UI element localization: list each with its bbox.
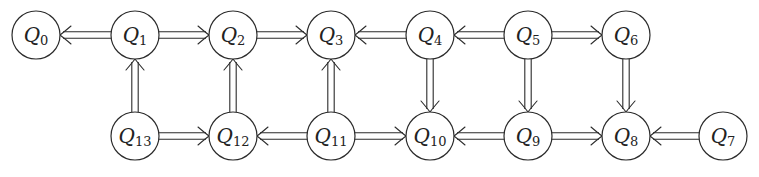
edge-q13-to-q12	[159, 127, 209, 145]
arrowhead-icon	[198, 26, 209, 44]
arrowhead-icon	[454, 127, 465, 145]
arrowhead-icon	[421, 101, 439, 112]
arrowhead-icon	[591, 26, 602, 44]
arrowhead-icon	[650, 127, 661, 145]
node-q0: Q0	[12, 11, 60, 59]
edge-q1-to-q2	[159, 26, 209, 44]
edge-q6-to-q8	[617, 59, 635, 112]
arrowhead-icon	[591, 127, 602, 145]
arrowhead-icon	[617, 101, 635, 112]
node-q10: Q10	[406, 112, 454, 160]
edge-q5-to-q9	[519, 59, 537, 112]
edge-q5-to-q4	[454, 26, 504, 44]
edge-q7-to-q8	[650, 127, 699, 145]
arrowhead-icon	[126, 59, 144, 70]
arrowhead-icon	[322, 59, 340, 70]
node-q9: Q9	[504, 112, 552, 160]
edge-q12-to-q2	[224, 59, 242, 112]
arrowhead-icon	[60, 26, 71, 44]
edge-q2-to-q3	[257, 26, 307, 44]
node-q5: Q5	[504, 11, 552, 59]
arrowhead-icon	[224, 59, 242, 70]
node-q6: Q6	[602, 11, 650, 59]
arrowhead-icon	[395, 127, 406, 145]
arrowhead-icon	[198, 127, 209, 145]
node-q4: Q4	[406, 11, 454, 59]
node-q3: Q3	[307, 11, 355, 59]
arrowhead-icon	[454, 26, 465, 44]
edge-q1-to-q0	[60, 26, 111, 44]
node-q13: Q13	[111, 112, 159, 160]
arrowhead-icon	[355, 26, 366, 44]
edge-q9-to-q10	[454, 127, 504, 145]
node-q8: Q8	[602, 112, 650, 160]
edge-q11-to-q10	[355, 127, 406, 145]
node-q12: Q12	[209, 112, 257, 160]
nodes-layer: Q0Q1Q2Q3Q4Q5Q6Q13Q12Q11Q10Q9Q8Q7	[12, 11, 747, 160]
arrowhead-icon	[296, 26, 307, 44]
arrowhead-icon	[519, 101, 537, 112]
state-diagram: Q0Q1Q2Q3Q4Q5Q6Q13Q12Q11Q10Q9Q8Q7	[0, 0, 759, 177]
edge-q9-to-q8	[552, 127, 602, 145]
edge-q11-to-q3	[322, 59, 340, 112]
node-q2: Q2	[209, 11, 257, 59]
edge-q4-to-q10	[421, 59, 439, 112]
arrowhead-icon	[257, 127, 268, 145]
edge-q13-to-q1	[126, 59, 144, 112]
node-q1: Q1	[111, 11, 159, 59]
edge-q4-to-q3	[355, 26, 406, 44]
node-q11: Q11	[307, 112, 355, 160]
node-q7: Q7	[699, 112, 747, 160]
edge-q5-to-q6	[552, 26, 602, 44]
edge-q11-to-q12	[257, 127, 307, 145]
